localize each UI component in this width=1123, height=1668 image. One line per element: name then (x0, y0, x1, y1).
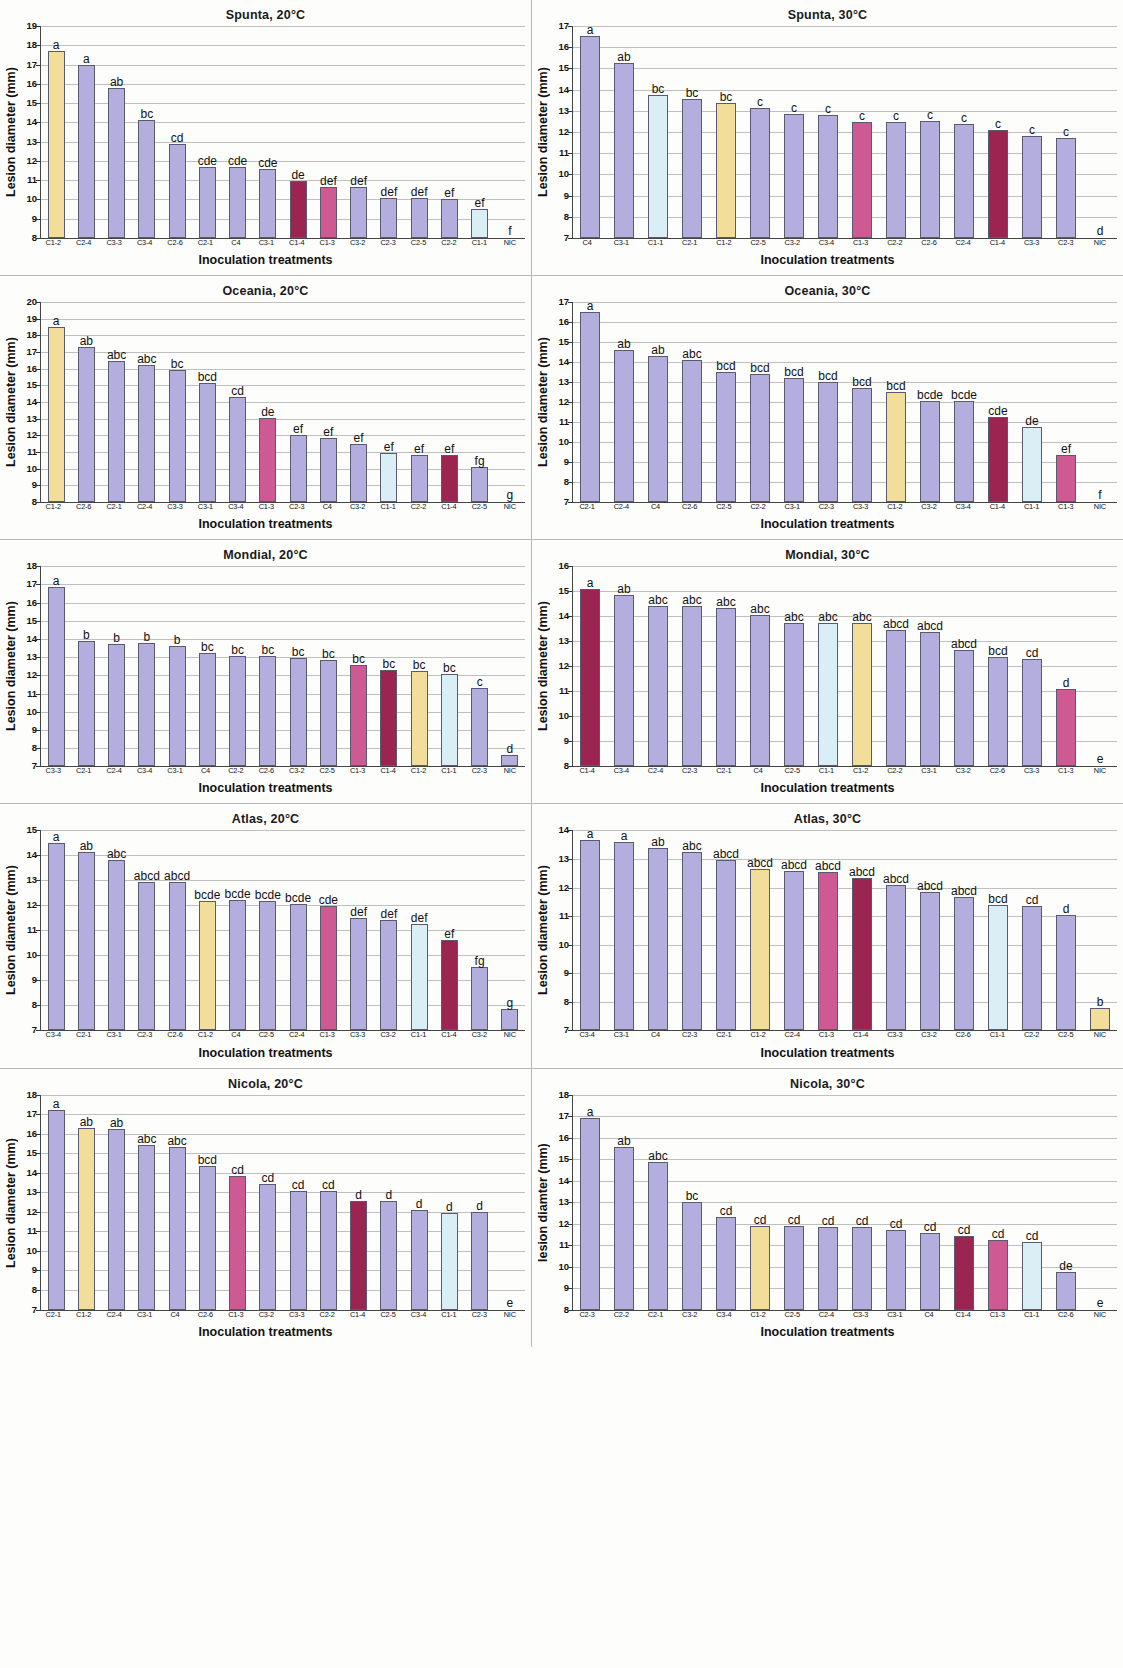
bar-group[interactable]: bcde (192, 830, 222, 1030)
bar-group[interactable]: abc (102, 830, 132, 1030)
bar-group[interactable]: abcd (913, 830, 947, 1030)
bar-group[interactable]: cde (253, 26, 283, 238)
bar[interactable]: cd (169, 144, 186, 238)
bar-group[interactable]: cd (879, 1095, 913, 1310)
bar-group[interactable]: cd (845, 1095, 879, 1310)
bar-group[interactable]: ef (434, 830, 464, 1030)
bar[interactable]: a (48, 843, 65, 1031)
bar-group[interactable]: cd (743, 1095, 777, 1310)
bar-group[interactable]: bc (641, 26, 675, 238)
bar-group[interactable]: c (947, 26, 981, 238)
bar-group[interactable]: c (1049, 26, 1083, 238)
bar-group[interactable]: abc (743, 566, 777, 766)
bar-group[interactable]: c (1015, 26, 1049, 238)
bar-group[interactable]: cd (313, 1095, 343, 1310)
bar[interactable]: bc (350, 665, 367, 766)
bar[interactable]: a (580, 312, 599, 502)
bar[interactable]: d (1056, 915, 1075, 1031)
bar[interactable]: def (350, 187, 367, 238)
bar-group[interactable]: e (1083, 1095, 1117, 1310)
bar[interactable]: ef (471, 209, 488, 238)
bar[interactable]: cde (259, 169, 276, 238)
bar-group[interactable]: ef (434, 26, 464, 238)
bar[interactable]: def (320, 187, 337, 238)
bar-group[interactable]: a (573, 302, 607, 502)
bar-group[interactable]: abcd (777, 830, 811, 1030)
bar[interactable]: de (1056, 1272, 1075, 1310)
bar[interactable]: cde (229, 167, 246, 238)
bar[interactable]: bc (290, 658, 307, 766)
bar[interactable]: ab (108, 1129, 125, 1310)
bar-group[interactable]: bc (313, 566, 343, 766)
bar-group[interactable]: def (374, 830, 404, 1030)
bar[interactable]: d (350, 1201, 367, 1309)
bar-group[interactable]: d (465, 1095, 495, 1310)
bar[interactable]: abcd (920, 892, 939, 1031)
bar[interactable]: b (169, 646, 186, 766)
bar-group[interactable]: a (71, 26, 101, 238)
bar[interactable]: cd (954, 1236, 973, 1310)
bar-group[interactable]: abc (102, 302, 132, 502)
bar[interactable]: de (259, 418, 276, 502)
bar-group[interactable]: g (495, 302, 525, 502)
bar[interactable]: d (471, 1212, 488, 1309)
bar[interactable]: bcd (818, 382, 837, 502)
bar[interactable]: bcd (750, 374, 769, 502)
bar[interactable]: bcde (259, 901, 276, 1030)
bar[interactable]: c (852, 122, 871, 238)
bar[interactable]: bcde (199, 901, 216, 1031)
bar-group[interactable]: bcd (981, 566, 1015, 766)
bar[interactable]: bcd (886, 392, 905, 502)
bar-group[interactable]: ab (71, 1095, 101, 1310)
bar[interactable]: fg (471, 467, 488, 502)
bar[interactable]: cd (784, 1226, 803, 1310)
bar[interactable]: ef (380, 453, 397, 502)
bar-group[interactable]: abcd (709, 830, 743, 1030)
bar-group[interactable]: cd (981, 1095, 1015, 1310)
bar[interactable]: def (380, 198, 397, 238)
bar-group[interactable]: c (879, 26, 913, 238)
bar[interactable]: abcd (954, 897, 973, 1031)
bar[interactable]: ef (411, 455, 428, 503)
bar[interactable]: c (784, 114, 803, 238)
bar-group[interactable]: de (253, 302, 283, 502)
bar-group[interactable]: bc (675, 1095, 709, 1310)
bar[interactable]: c (471, 688, 488, 766)
bar[interactable]: bc (259, 656, 276, 767)
bar[interactable]: bc (199, 653, 216, 766)
bar[interactable]: bcd (988, 905, 1007, 1031)
bar-group[interactable]: cd (223, 302, 253, 502)
bar[interactable]: c (1056, 138, 1075, 238)
bar[interactable]: g (501, 1009, 518, 1030)
bar-group[interactable]: b (132, 566, 162, 766)
bar-group[interactable]: c (743, 26, 777, 238)
bar[interactable]: cd (886, 1230, 905, 1310)
bar-group[interactable]: cd (1015, 1095, 1049, 1310)
bar-group[interactable]: ef (404, 302, 434, 502)
bar[interactable]: cde (199, 167, 216, 238)
bar-group[interactable]: f (1083, 302, 1117, 502)
bar[interactable]: bc (682, 1202, 701, 1310)
bar[interactable]: cd (1022, 659, 1041, 766)
bar[interactable]: ef (441, 940, 458, 1030)
bar-group[interactable]: cd (947, 1095, 981, 1310)
bar-group[interactable]: abc (777, 566, 811, 766)
bar-group[interactable]: fg (465, 830, 495, 1030)
bar-group[interactable]: c (913, 26, 947, 238)
bar-group[interactable]: bcde (913, 302, 947, 502)
bar[interactable]: b (108, 644, 125, 767)
bar-group[interactable]: abc (675, 302, 709, 502)
bar-group[interactable]: cd (223, 1095, 253, 1310)
bar[interactable]: cd (229, 397, 246, 502)
bar-group[interactable]: cd (1015, 566, 1049, 766)
bar-group[interactable]: a (41, 830, 71, 1030)
bar-group[interactable]: a (573, 830, 607, 1030)
bar-group[interactable]: abcd (879, 830, 913, 1030)
bar-group[interactable]: d (1083, 26, 1117, 238)
bar-group[interactable]: c (465, 566, 495, 766)
bar[interactable]: abcd (169, 882, 186, 1030)
bar[interactable]: d (1056, 689, 1075, 767)
bar-group[interactable]: ab (102, 26, 132, 238)
bar-group[interactable]: d (374, 1095, 404, 1310)
bar-group[interactable]: cde (192, 26, 222, 238)
